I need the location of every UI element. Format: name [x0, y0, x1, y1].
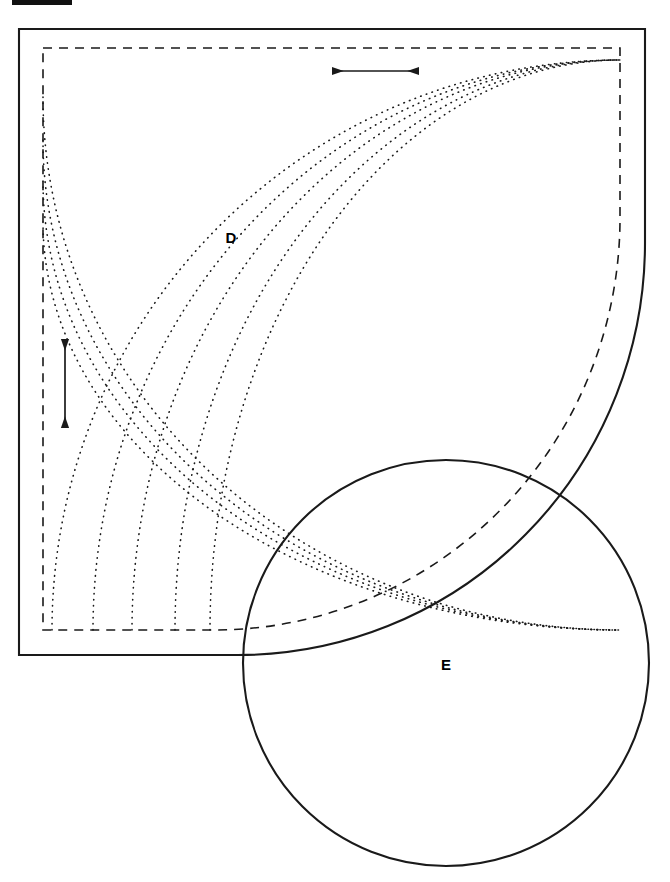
dotted-arc-6: [43, 97, 620, 630]
outer-solid-profile: [19, 29, 645, 655]
dotted-arc-5: [210, 60, 620, 630]
dotted-arc-2: [93, 60, 620, 630]
dotted-arc-8: [43, 181, 620, 630]
inner-dashed-profile: [43, 48, 620, 630]
label-d: D: [226, 229, 237, 246]
dotted-arc-3: [132, 60, 620, 630]
dotted-arc-9: [43, 222, 620, 630]
label-e: E: [441, 656, 451, 673]
technical-drawing-canvas: D E: [0, 0, 670, 882]
diagram-page: D E: [0, 0, 670, 882]
dotted-arc-4: [175, 60, 620, 630]
crop-bar-marker: [12, 0, 72, 5]
dotted-arc-7: [43, 140, 620, 630]
dotted-arc-group: [43, 60, 620, 630]
dotted-arc-1: [52, 60, 620, 630]
